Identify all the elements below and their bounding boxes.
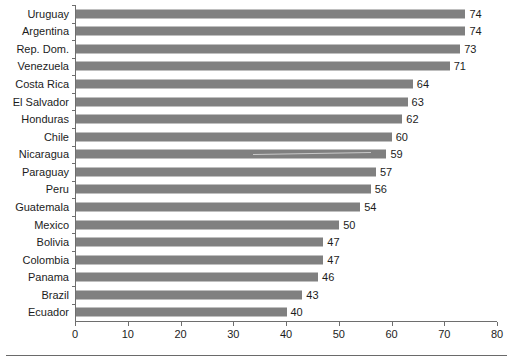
category-label: Peru: [46, 184, 69, 195]
bar-value-label: 74: [465, 8, 481, 19]
bar-row: El Salvador63: [76, 93, 497, 111]
bar-row: Uruguay74: [76, 5, 497, 23]
y-axis-tick: [72, 304, 76, 305]
category-label: El Salvador: [13, 96, 69, 107]
bar-rows: Uruguay74Argentina74Rep. Dom.73Venezuela…: [76, 5, 497, 321]
category-label: Paraguay: [22, 166, 69, 177]
bar-value-label: 57: [376, 166, 392, 177]
x-axis-tick-label: 20: [174, 329, 186, 340]
bar-row: Paraguay57: [76, 163, 497, 181]
bar-value-label: 43: [302, 289, 318, 300]
bar-row: Peru56: [76, 181, 497, 199]
bar-value-label: 74: [465, 26, 481, 37]
bar: [76, 132, 392, 141]
y-axis-tick: [72, 146, 76, 147]
category-label: Rep. Dom.: [16, 43, 69, 54]
x-axis-tick: [392, 322, 393, 326]
bar-row: Brazil43: [76, 286, 497, 304]
category-label: Panama: [28, 272, 69, 283]
bar: [76, 238, 323, 247]
y-axis-tick: [72, 233, 76, 234]
bar-row: Panama46: [76, 268, 497, 286]
bar-row: Mexico50: [76, 216, 497, 234]
category-label: Bolivia: [37, 237, 69, 248]
bar: [76, 115, 402, 124]
bar-row: Honduras62: [76, 110, 497, 128]
y-axis-tick: [72, 93, 76, 94]
category-label: Venezuela: [18, 61, 69, 72]
bar: [76, 202, 360, 211]
y-axis-tick: [72, 5, 76, 6]
bar-value-label: 50: [339, 219, 355, 230]
bar-row: Costa Rica64: [76, 75, 497, 93]
bar: [76, 290, 302, 299]
bar: [76, 62, 450, 71]
x-axis-tick-label: 0: [72, 329, 78, 340]
y-axis-tick: [72, 23, 76, 24]
bar-value-label: 47: [323, 254, 339, 265]
x-axis-tick-label: 10: [122, 329, 134, 340]
category-label: Guatemala: [15, 201, 69, 212]
y-axis-tick: [72, 268, 76, 269]
bar-value-label: 71: [450, 61, 466, 72]
x-axis-tick: [128, 322, 129, 326]
x-axis-tick: [75, 322, 76, 326]
x-axis-tick: [497, 322, 498, 326]
bar: [76, 273, 318, 282]
bar-value-label: 63: [408, 96, 424, 107]
bar-value-label: 47: [323, 237, 339, 248]
y-axis-tick: [72, 163, 76, 164]
x-axis-tick-label: 30: [227, 329, 239, 340]
bar-value-label: 64: [413, 79, 429, 90]
x-axis-tick-label: 70: [438, 329, 450, 340]
bar-row: Argentina74: [76, 23, 497, 41]
category-label: Chile: [44, 131, 69, 142]
x-axis-tick: [339, 322, 340, 326]
y-axis-tick: [72, 128, 76, 129]
y-axis-tick: [72, 216, 76, 217]
y-axis-tick: [72, 40, 76, 41]
bar-row: Ecuador40: [76, 304, 497, 322]
category-label: Colombia: [23, 254, 69, 265]
plot-area: Uruguay74Argentina74Rep. Dom.73Venezuela…: [75, 5, 497, 322]
category-label: Ecuador: [28, 307, 69, 318]
bar-row: Rep. Dom.73: [76, 40, 497, 58]
bar-value-label: 62: [402, 114, 418, 125]
category-label: Nicaragua: [19, 149, 69, 160]
bar-value-label: 40: [287, 307, 303, 318]
bar-chart: Uruguay74Argentina74Rep. Dom.73Venezuela…: [0, 0, 513, 363]
bar: [76, 150, 386, 159]
bar: [76, 220, 339, 229]
x-axis-tick-label: 60: [385, 329, 397, 340]
category-label: Mexico: [34, 219, 69, 230]
bar-row: Guatemala54: [76, 198, 497, 216]
bar: [76, 80, 413, 89]
category-label: Uruguay: [27, 8, 69, 19]
y-axis-tick: [72, 181, 76, 182]
y-axis-tick: [72, 198, 76, 199]
x-axis-tick: [233, 322, 234, 326]
x-axis-tick: [286, 322, 287, 326]
x-axis-tick-label: 40: [280, 329, 292, 340]
category-label: Argentina: [22, 26, 69, 37]
y-axis-tick: [72, 110, 76, 111]
category-label: Costa Rica: [15, 79, 69, 90]
bar-row: Chile60: [76, 128, 497, 146]
bar-row: Colombia47: [76, 251, 497, 269]
category-label: Brazil: [41, 289, 69, 300]
x-axis-tick-label: 50: [333, 329, 345, 340]
bar-row: Venezuela71: [76, 58, 497, 76]
bar: [76, 308, 287, 317]
bar: [76, 255, 323, 264]
bar-value-label: 56: [371, 184, 387, 195]
x-axis-tick: [444, 322, 445, 326]
bar: [76, 185, 371, 194]
bar: [76, 9, 465, 18]
category-label: Honduras: [21, 114, 69, 125]
bottom-divider: [6, 355, 507, 356]
bar-value-label: 60: [392, 131, 408, 142]
bar-value-label: 54: [360, 201, 376, 212]
bar: [76, 27, 465, 36]
y-axis-tick: [72, 286, 76, 287]
y-axis-tick: [72, 75, 76, 76]
